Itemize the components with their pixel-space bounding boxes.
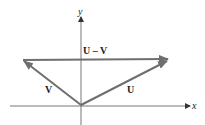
vector-u — [81, 61, 167, 105]
vector-u-minus-v — [23, 59, 168, 60]
vector-u-minus-v-label: U – V — [83, 45, 108, 56]
vector-v-label: V — [45, 84, 53, 95]
vector-u-label: U — [127, 84, 134, 95]
x-axis-label: x — [191, 100, 197, 111]
vector-diagram: y x U – V V U — [0, 0, 205, 125]
vector-v — [24, 61, 81, 105]
y-axis-label: y — [77, 6, 83, 17]
